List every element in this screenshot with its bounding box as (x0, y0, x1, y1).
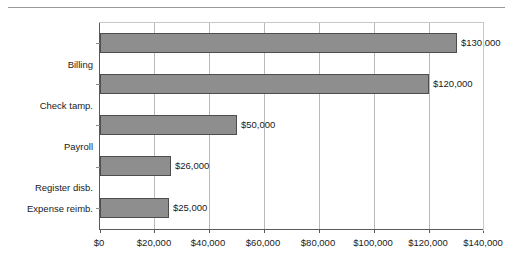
y-axis-label-register-disb: Register disb. (35, 183, 93, 193)
xtick-label-100000: $100,000 (353, 237, 393, 248)
bar-register-disb[interactable] (100, 156, 171, 176)
bar-billing[interactable] (100, 33, 457, 53)
xtick-label-40000: $40,000 (191, 237, 225, 248)
xtick-mark-80000 (319, 229, 320, 233)
chart-figure: Billing Check tamp. Payroll Register dis… (0, 0, 513, 266)
plot-frame-top (99, 22, 484, 23)
data-label-payroll: $50,000 (241, 120, 275, 130)
bar-expense-reimb[interactable] (100, 198, 169, 218)
xtick-label-0: $0 (94, 237, 105, 248)
xtick-mark-60000 (264, 229, 265, 233)
xtick-label-60000: $60,000 (246, 237, 280, 248)
xtick-mark-20000 (154, 229, 155, 233)
top-divider-rule (8, 7, 505, 8)
data-label-register-disb: $26,000 (175, 161, 209, 171)
data-label-billing: $130,000 (461, 38, 501, 48)
y-axis-label-expense-reimb: Expense reimb. (27, 204, 93, 214)
gridline-120000 (429, 22, 430, 230)
y-axis-labels: Billing Check tamp. Payroll Register dis… (0, 22, 93, 230)
xtick-label-20000: $20,000 (137, 237, 171, 248)
xtick-mark-120000 (429, 229, 430, 233)
xtick-label-120000: $120,000 (408, 237, 448, 248)
bar-check-tamp[interactable] (100, 74, 429, 94)
data-label-check-tamp: $120,000 (433, 79, 473, 89)
xtick-label-80000: $80,000 (301, 237, 335, 248)
xtick-mark-0 (100, 229, 101, 233)
gridline-100000 (374, 22, 375, 230)
xtick-mark-40000 (209, 229, 210, 233)
xtick-label-140000: $140,000 (463, 237, 503, 248)
gridline-80000 (319, 22, 320, 230)
xtick-mark-100000 (374, 229, 375, 233)
y-axis-label-billing: Billing (68, 60, 93, 70)
data-label-expense-reimb: $25,000 (173, 203, 207, 213)
y-axis-label-payroll: Payroll (64, 142, 93, 152)
y-axis-label-check-tamp: Check tamp. (40, 101, 93, 111)
bar-payroll[interactable] (100, 115, 237, 135)
plot-frame-right (483, 22, 484, 231)
plot-area: $130,000 $120,000 $50,000 $26,000 $25,00… (99, 22, 483, 230)
